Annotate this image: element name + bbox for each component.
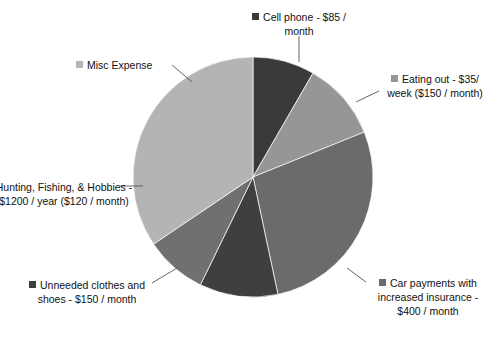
legend-swatch-car-payments: [379, 279, 386, 286]
pie-label-text-cell-phone: Cell phone - $85 / month: [263, 11, 346, 37]
legend-swatch-cell-phone: [252, 13, 259, 20]
pie-label-text-unneeded-clothes: Unneeded clothes and shoes - $150 / mont…: [38, 279, 145, 305]
leader-line-carpayments: [347, 268, 366, 282]
pie-label-cell-phone: Cell phone - $85 / month: [243, 10, 355, 38]
pie-label-text-hunting-hobbies: Hunting, Fishing, & Hobbies - $1200 / ye…: [0, 181, 132, 207]
pie-label-hunting-hobbies: Hunting, Fishing, & Hobbies - $1200 / ye…: [0, 180, 134, 208]
pie-label-text-eating-out: Eating out - $35/ week ($150 / month): [387, 73, 483, 99]
pie-label-unneeded-clothes: Unneeded clothes and shoes - $150 / mont…: [22, 278, 152, 306]
leader-line-unneeded: [152, 268, 177, 283]
pie-label-car-payments: Car payments with increased insurance - …: [368, 276, 487, 318]
pie-label-misc-expense: Misc Expense: [76, 58, 186, 72]
pie-slice-group: [133, 57, 373, 297]
pie-label-text-misc-expense: Misc Expense: [87, 59, 152, 71]
legend-swatch-eating-out: [391, 75, 398, 82]
pie-label-text-car-payments: Car payments with increased insurance - …: [378, 277, 478, 317]
legend-swatch-misc-expense: [76, 61, 83, 68]
pie-label-eating-out: Eating out - $35/ week ($150 / month): [381, 72, 487, 100]
legend-swatch-unneeded-clothes: [29, 281, 36, 288]
leader-line-eatingout: [356, 91, 379, 102]
